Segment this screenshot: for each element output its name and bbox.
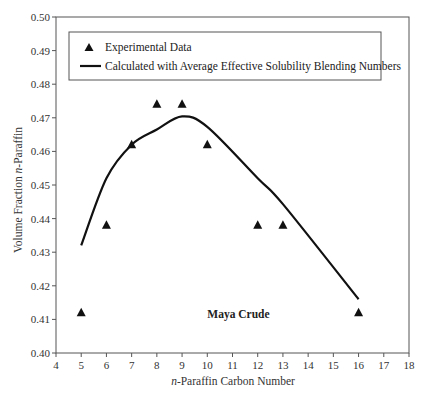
legend-label-experimental: Experimental Data	[105, 41, 192, 54]
x-tick-label: 11	[227, 359, 238, 371]
triangle-data-point-icon	[77, 308, 86, 317]
triangle-data-point-icon	[203, 140, 212, 149]
calculated-line	[81, 116, 358, 299]
legend: Experimental Data Calculated with Averag…	[69, 32, 401, 80]
x-tick-label: 5	[78, 359, 84, 371]
y-tick-label: 0.44	[31, 213, 51, 225]
experimental-points	[77, 99, 363, 316]
x-tick-label: 17	[378, 359, 390, 371]
legend-box	[69, 32, 381, 80]
x-tick-label: 13	[277, 359, 289, 371]
chart: 0.400.410.420.430.440.450.460.470.480.49…	[0, 0, 431, 403]
calculated-curve	[81, 116, 358, 299]
x-tick-label: 8	[154, 359, 160, 371]
x-tick-label: 14	[303, 359, 315, 371]
x-tick-label: 15	[328, 359, 340, 371]
triangle-data-point-icon	[278, 220, 287, 229]
y-tick-label: 0.46	[31, 145, 51, 157]
x-tick-label: 9	[179, 359, 185, 371]
y-tick-label: 0.47	[31, 112, 51, 124]
triangle-data-point-icon	[253, 220, 262, 229]
triangle-data-point-icon	[178, 99, 187, 108]
y-tick-label: 0.43	[31, 246, 51, 258]
x-tick-label: 10	[202, 359, 214, 371]
x-tick-label: 6	[104, 359, 110, 371]
x-tick-label: 4	[53, 359, 59, 371]
x-tick-label: 18	[404, 359, 416, 371]
triangle-data-point-icon	[102, 220, 111, 229]
y-tick-label: 0.42	[31, 280, 50, 292]
y-axis-ticks: 0.400.410.420.430.440.450.460.470.480.49…	[31, 11, 56, 359]
y-axis-title: Volume Fraction n-Paraffin	[12, 127, 24, 253]
legend-label-calculated: Calculated with Average Effective Solubi…	[105, 60, 401, 73]
y-tick-label: 0.41	[31, 313, 50, 325]
triangle-data-point-icon	[354, 308, 363, 317]
y-tick-label: 0.40	[31, 347, 51, 359]
y-tick-label: 0.50	[31, 11, 51, 23]
triangle-data-point-icon	[152, 99, 161, 108]
y-tick-label: 0.49	[31, 45, 51, 57]
x-axis-title: n-Paraffin Carbon Number	[171, 375, 295, 387]
y-tick-label: 0.45	[31, 179, 51, 191]
x-tick-label: 12	[252, 359, 263, 371]
x-axis-ticks: 456789101112131415161718	[53, 353, 415, 371]
maya-crude-annotation: Maya Crude	[207, 308, 269, 321]
x-tick-label: 7	[129, 359, 135, 371]
y-tick-label: 0.48	[31, 78, 51, 90]
x-tick-label: 16	[353, 359, 365, 371]
